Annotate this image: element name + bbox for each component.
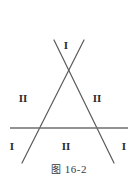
figure-caption-number: 16-2 [65, 163, 87, 175]
region-label-middle-right: II [93, 93, 102, 104]
figure-container: I II II I II I 图 16-2 [0, 0, 138, 186]
region-label-top: I [64, 40, 68, 51]
region-label-bottom-right: I [122, 141, 126, 152]
figure-caption: 图 16-2 [51, 161, 87, 176]
region-label-bottom-left: I [10, 141, 14, 152]
figure-caption-cjk: 图 [51, 164, 62, 175]
region-label-bottom-middle: II [62, 141, 71, 152]
region-label-middle-left: II [19, 93, 28, 104]
diagonal-line-down-left [22, 40, 84, 163]
